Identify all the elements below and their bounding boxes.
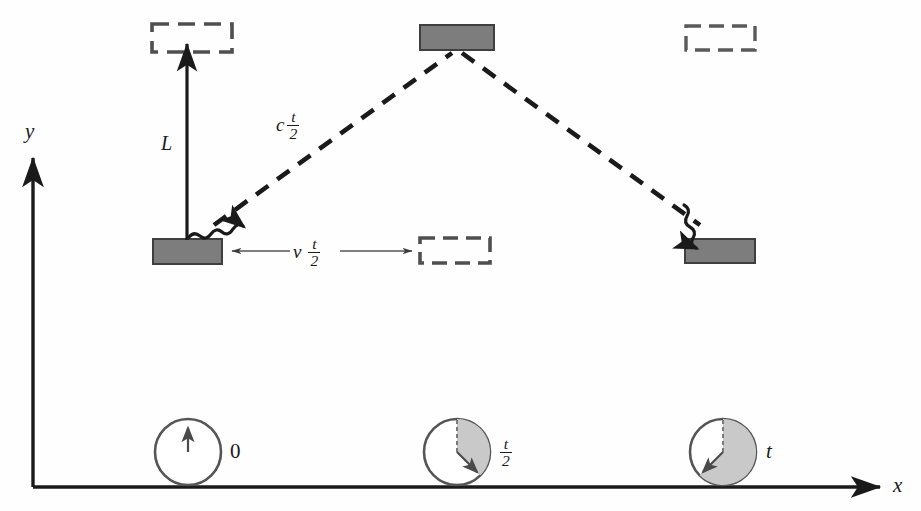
displacement-label-denominator: 2 <box>308 253 320 269</box>
clock-end <box>690 419 756 485</box>
clock-start <box>155 419 221 485</box>
light-path-right-leg <box>462 53 700 225</box>
light-path-label-lead: c <box>276 114 284 135</box>
top-left-ghost-mirror <box>152 24 232 52</box>
x-axis-label: x <box>893 473 902 498</box>
top-middle-mirror <box>420 25 494 50</box>
light-path-label-numerator: t <box>287 109 299 126</box>
clock-half-label-denominator: 2 <box>500 453 512 469</box>
clock-start-label: 0 <box>230 439 241 464</box>
height-label-L: L <box>161 132 172 155</box>
clock-half-label: t 2 <box>500 437 512 471</box>
light-path-label: c t 2 <box>276 110 299 144</box>
top-right-ghost-mirror <box>686 26 755 50</box>
displacement-label-fraction: t 2 <box>308 236 320 270</box>
wavy-photon-left <box>189 225 243 239</box>
clock-half-label-numerator: t <box>500 436 512 453</box>
bottom-left-mirror <box>153 239 222 264</box>
displacement-label-lead: v <box>293 241 301 262</box>
clock-half <box>424 419 490 485</box>
clock-end-label: t <box>766 439 772 464</box>
light-path-label-denominator: 2 <box>287 126 299 142</box>
light-path-label-fraction: t 2 <box>287 109 299 143</box>
clock-half-label-fraction: t 2 <box>500 436 512 470</box>
bottom-right-mirror <box>685 239 755 263</box>
bottom-middle-ghost-mirror <box>420 238 490 263</box>
displacement-label-numerator: t <box>308 236 320 253</box>
light-clock-figure: y x L c t 2 v t 2 0 t 2 t <box>0 0 921 511</box>
wavy-photon-group <box>189 205 696 248</box>
y-axis-label: y <box>25 119 34 144</box>
diagram-canvas <box>0 0 921 511</box>
displacement-label: v t 2 <box>293 237 320 271</box>
light-path-left-leg <box>214 53 452 225</box>
solid-mirrors-group <box>153 25 755 264</box>
